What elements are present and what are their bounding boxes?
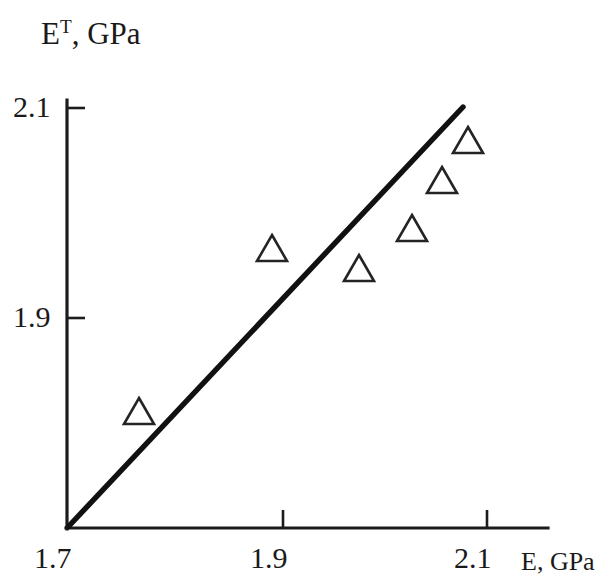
x-tick-label-2-1: 2.1 [454,543,492,573]
y-tick-label-1-9: 1.9 [13,302,51,332]
y-axis-title-rest: , GPa [72,16,141,51]
y-axis-title: ET, GPa [41,18,141,49]
data-point-marker [397,215,427,241]
chart-plot-area [0,0,614,588]
x-tick-label-1-7: 1.7 [34,543,72,573]
data-point-marker [257,235,287,261]
y-axis-title-base: E [41,16,60,51]
y-tick-label-2-1: 2.1 [13,92,51,122]
chart-figure: ET, GPa E, GPa 2.1 1.9 1.7 1.9 2.1 [0,0,614,588]
x-axis-title: E, GPa [521,549,595,575]
identity-fit-line [68,107,463,527]
data-point-marker [427,167,457,193]
y-axis-title-superscript: T [60,16,72,37]
data-point-marker [344,255,374,281]
x-tick-label-1-9: 1.9 [250,543,288,573]
data-point-marker [453,127,483,153]
data-point-marker [124,398,154,424]
